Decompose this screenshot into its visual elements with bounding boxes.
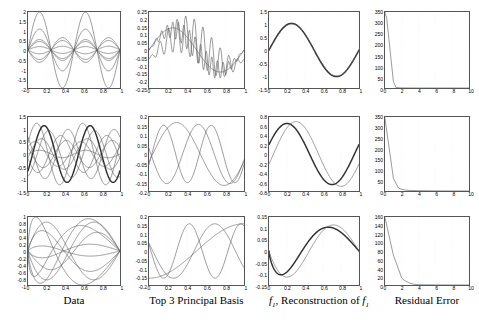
y-tick-label: 0.15 [137, 124, 147, 129]
plot-axes-r1c2: -0.25-0.2-0.15-0.1-0.0500.050.10.150.20.… [148, 11, 245, 89]
plot-axes-r1c3: -1.5-1-0.500.511.500.20.40.60.81 [268, 11, 360, 89]
plot-axes-r3c1: -1-0.8-0.6-0.4-0.200.20.40.60.8100.20.40… [27, 216, 121, 286]
x-tick-label: 0 [148, 286, 151, 291]
y-tick-label: 1.5 [19, 19, 26, 24]
x-tick-label: 0.6 [321, 192, 328, 197]
plot-axes-r1c4: 0501001502002503003500246810 [384, 11, 470, 89]
x-tick-label: 0.8 [223, 192, 230, 197]
y-tick-label: 0.15 [137, 25, 147, 30]
y-tick-label: -1 [263, 75, 267, 80]
x-tick-label: 0 [268, 89, 271, 94]
y-tick-label: 20 [377, 276, 383, 281]
y-tick-label: 0.5 [260, 36, 267, 41]
y-tick-label: 350 [375, 115, 383, 120]
x-tick-label: 1 [360, 192, 363, 197]
x-tick-label: 0 [27, 192, 30, 197]
y-tick-label: 200 [375, 43, 383, 48]
y-tick-label: 0.2 [140, 17, 147, 22]
y-tick-label: 0.05 [137, 41, 147, 46]
y-tick-label: 0.4 [19, 236, 26, 241]
y-tick-label: -0.05 [136, 258, 147, 263]
plot-axes-r2c1: -1.5-1-0.500.511.500.20.40.60.81 [27, 116, 121, 192]
y-tick-label: 0.25 [137, 10, 147, 15]
y-tick-label: -0.05 [136, 162, 147, 167]
y-tick-label: -1 [22, 68, 26, 73]
y-tick-label: 1 [23, 29, 26, 34]
y-tick-label: 0.8 [19, 222, 26, 227]
y-tick-label: -0.6 [17, 271, 26, 276]
panel-x-axis-label: f1, Reconstruction of f1 [269, 294, 359, 311]
y-tick-label: 2 [23, 10, 26, 15]
y-tick-label: -0.6 [258, 181, 267, 186]
y-tick-label: -1.5 [17, 191, 26, 196]
x-tick-label: 0 [268, 286, 271, 291]
x-tick-label: 6 [435, 286, 438, 291]
y-tick-label: 0.6 [260, 124, 267, 129]
x-tick-label: 8 [452, 286, 455, 291]
x-tick-label: 0.6 [204, 89, 211, 94]
plot-axes-r3c3: -0.15-0.1-0.0500.050.10.1500.20.40.60.81… [268, 216, 360, 286]
y-tick-label: -0.1 [138, 64, 147, 69]
x-tick-label: 1 [245, 89, 248, 94]
x-tick-label: 10 [468, 89, 474, 94]
x-tick-label: 0.8 [100, 89, 107, 94]
y-tick-label: 1 [23, 215, 26, 220]
x-tick-label: 6 [435, 192, 438, 197]
x-tick-label: 0.6 [81, 192, 88, 197]
plot-panel-r1c1: -2-1.5-1-0.500.511.5200.20.40.60.81 [27, 11, 121, 89]
y-tick-label: 0.1 [260, 226, 267, 231]
panel-x-axis-label: Data [28, 294, 120, 306]
y-tick-label: 300 [375, 21, 383, 26]
x-tick-label: 0 [148, 192, 151, 197]
x-tick-label: 0.8 [223, 89, 230, 94]
y-tick-label: 0 [380, 88, 383, 93]
x-tick-label: 6 [435, 89, 438, 94]
x-tick-label: 0.2 [43, 89, 50, 94]
y-tick-label: 0 [144, 153, 147, 158]
y-tick-label: 0 [144, 250, 147, 255]
y-tick-label: -0.15 [136, 181, 147, 186]
x-tick-label: 0.6 [204, 192, 211, 197]
y-tick-label: -0.5 [17, 165, 26, 170]
y-tick-label: 0.2 [260, 143, 267, 148]
x-tick-label: 1 [245, 192, 248, 197]
x-tick-label: 0.6 [321, 89, 328, 94]
y-tick-label: 0 [380, 191, 383, 196]
x-tick-label: 0 [268, 192, 271, 197]
y-tick-label: 50 [377, 76, 383, 81]
x-tick-label: 0.4 [184, 89, 191, 94]
x-tick-label: 0 [384, 192, 387, 197]
x-tick-label: 0.8 [339, 192, 346, 197]
y-tick-label: 1.5 [19, 115, 26, 120]
y-tick-label: 1 [264, 23, 267, 28]
x-tick-label: 4 [418, 89, 421, 94]
y-tick-label: 150 [375, 54, 383, 59]
y-tick-label: 0.4 [260, 134, 267, 139]
plot-panel-r3c3: -0.15-0.1-0.0500.050.10.1500.20.40.60.81… [268, 216, 360, 286]
y-tick-label: 0.2 [19, 243, 26, 248]
y-tick-label: 300 [375, 125, 383, 130]
y-tick-label: -2 [22, 88, 26, 93]
x-tick-label: 1 [360, 89, 363, 94]
y-tick-label: -0.8 [258, 191, 267, 196]
y-tick-label: -0.2 [138, 191, 147, 196]
y-tick-label: 0.5 [19, 39, 26, 44]
y-tick-label: -0.2 [258, 162, 267, 167]
plot-panel-r1c2: -0.25-0.2-0.15-0.1-0.0500.050.10.150.20.… [148, 11, 245, 89]
y-tick-label: 100 [375, 65, 383, 70]
x-tick-label: 0.2 [165, 286, 172, 291]
y-tick-label: 100 [375, 241, 383, 246]
y-tick-label: -0.2 [138, 285, 147, 290]
x-tick-label: 0.4 [302, 192, 309, 197]
y-tick-label: 0.2 [140, 115, 147, 120]
y-tick-label: 0.1 [140, 232, 147, 237]
x-tick-label: 8 [452, 89, 455, 94]
y-tick-label: 0 [23, 250, 26, 255]
y-tick-label: 40 [377, 267, 383, 272]
y-tick-label: -0.4 [258, 172, 267, 177]
y-tick-label: 350 [375, 10, 383, 15]
x-tick-label: 0.4 [62, 89, 69, 94]
y-tick-label: -0.05 [256, 261, 267, 266]
x-tick-label: 0.2 [43, 192, 50, 197]
y-tick-label: 0.05 [137, 143, 147, 148]
